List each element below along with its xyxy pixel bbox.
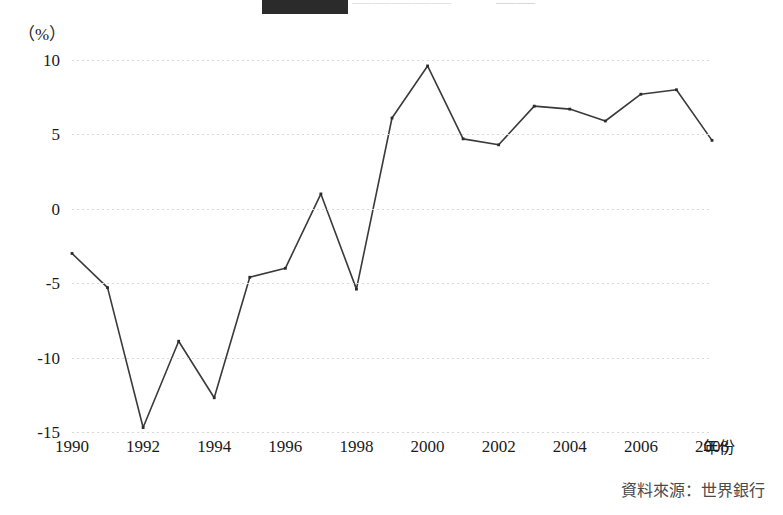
source-note: 資料來源：世界銀行 <box>621 483 765 499</box>
data-point-marker <box>604 120 607 123</box>
y-axis-unit-label: （%） <box>18 26 66 43</box>
data-point-marker <box>71 252 74 255</box>
x-axis-name-label: 年份 <box>703 440 735 456</box>
data-point-marker <box>213 396 216 399</box>
data-point-marker <box>426 65 429 68</box>
gridline <box>72 432 712 433</box>
x-tick-label: 1992 <box>113 438 173 455</box>
x-tick-label: 2006 <box>611 438 671 455</box>
data-point-marker <box>391 117 394 120</box>
series-line-chart <box>72 60 712 432</box>
data-point-marker <box>284 267 287 270</box>
y-tick-label: -10 <box>6 350 60 367</box>
title-clipped-strip: ————— —— <box>0 0 783 14</box>
y-tick-label: -5 <box>6 275 60 292</box>
y-tick-label: 10 <box>6 52 60 69</box>
y-tick-label: 0 <box>6 201 60 218</box>
data-point-marker <box>319 193 322 196</box>
data-point-marker <box>462 137 465 140</box>
gridline <box>72 134 712 135</box>
data-point-marker <box>142 426 145 429</box>
data-point-marker <box>106 286 109 289</box>
gridline <box>72 209 712 210</box>
data-point-marker <box>639 93 642 96</box>
gridline <box>72 358 712 359</box>
gridline <box>72 60 712 61</box>
x-tick-label: 2000 <box>398 438 458 455</box>
x-tick-label: 1996 <box>255 438 315 455</box>
title-fragment-faint-2: —— <box>496 0 536 13</box>
data-point-marker <box>355 288 358 291</box>
x-tick-label: 2004 <box>540 438 600 455</box>
x-tick-label: 1998 <box>326 438 386 455</box>
x-tick-label: 1990 <box>42 438 102 455</box>
data-point-marker <box>248 276 251 279</box>
chart-figure: ————— —— （%） 1050-5-10-15 19901992199419… <box>0 0 783 515</box>
series-line <box>72 66 712 428</box>
data-point-marker <box>568 108 571 111</box>
data-point-marker <box>497 143 500 146</box>
plot-area <box>72 60 712 432</box>
data-point-marker <box>177 340 180 343</box>
data-point-marker <box>533 105 536 108</box>
data-point-marker <box>675 88 678 91</box>
title-fragment-dark <box>262 0 348 14</box>
x-tick-label: 2002 <box>469 438 529 455</box>
gridline <box>72 283 712 284</box>
title-fragment-faint-1: ————— <box>352 0 452 13</box>
y-tick-label: 5 <box>6 126 60 143</box>
data-point-marker <box>711 139 714 142</box>
x-tick-label: 1994 <box>184 438 244 455</box>
